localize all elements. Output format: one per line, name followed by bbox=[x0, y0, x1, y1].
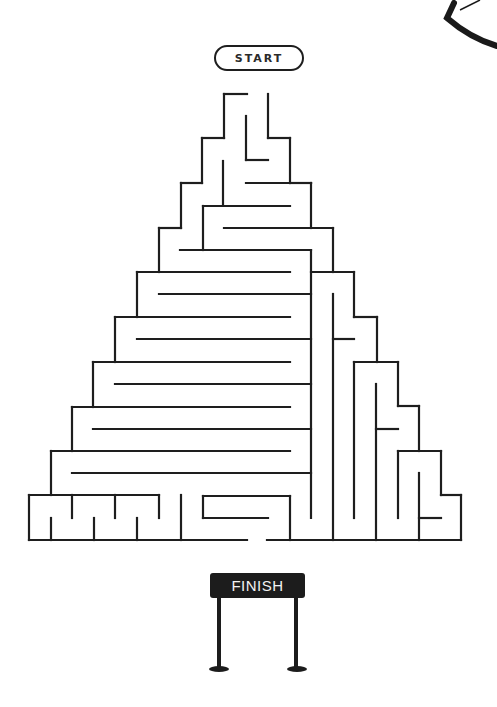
finish-foot-left bbox=[209, 666, 229, 672]
finish-posts bbox=[0, 0, 497, 707]
finish-foot-right bbox=[287, 666, 307, 672]
finish-label: FINISH bbox=[231, 577, 283, 594]
finish-sign: FINISH bbox=[210, 573, 305, 598]
